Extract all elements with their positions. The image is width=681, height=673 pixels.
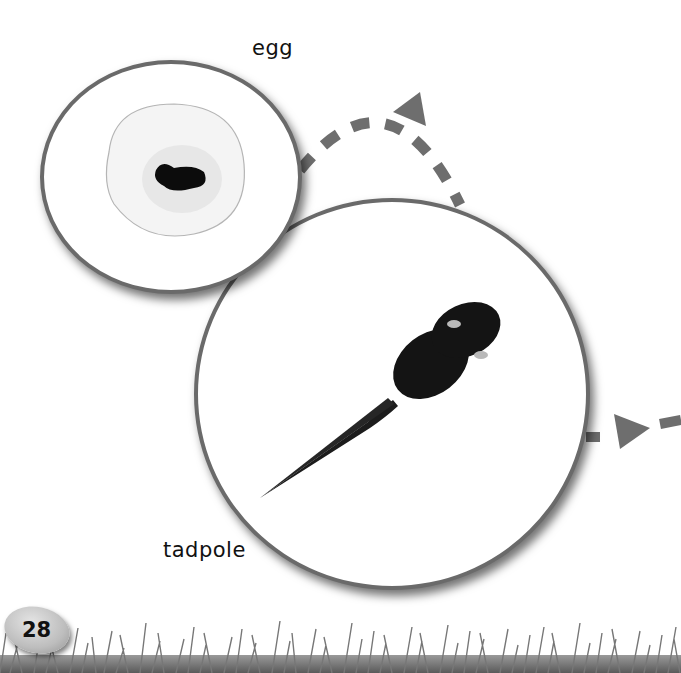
- arrow-tadpole-to-next: [586, 414, 681, 449]
- egg-label: egg: [252, 36, 293, 60]
- page-number: 28: [22, 618, 51, 642]
- arrow-egg-to-tadpole: [300, 92, 460, 205]
- egg-stage-circle: [40, 60, 302, 294]
- grass-strip: [0, 593, 681, 673]
- egg-illustration: [44, 64, 306, 298]
- leg-icon: [447, 320, 461, 328]
- tadpole-label: tadpole: [163, 538, 246, 562]
- arrowhead-icon: [614, 414, 650, 449]
- leg-icon: [474, 351, 488, 359]
- arrowhead-icon: [393, 92, 426, 126]
